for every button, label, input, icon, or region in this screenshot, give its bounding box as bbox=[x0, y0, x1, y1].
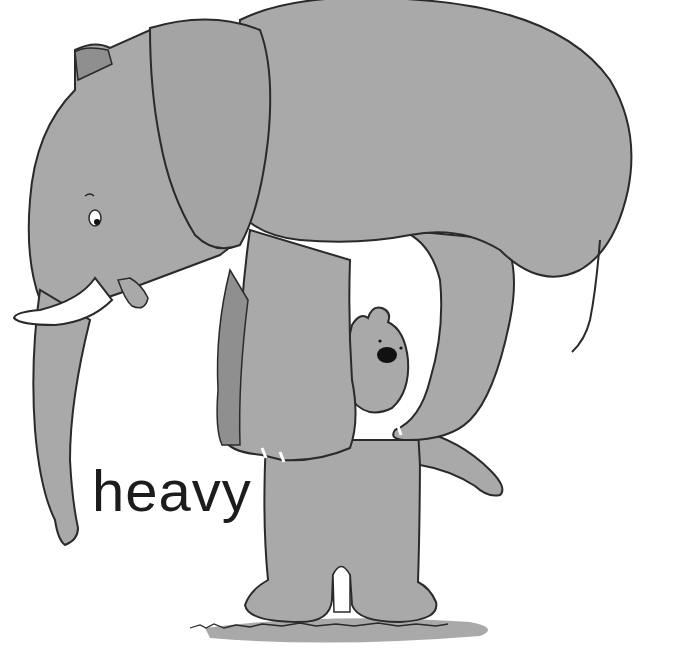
bear-eye-left bbox=[378, 339, 381, 342]
elephant-trunk bbox=[33, 290, 90, 545]
caption-word: heavy bbox=[92, 462, 252, 520]
ground-shadow bbox=[205, 618, 488, 642]
bear-nose bbox=[377, 347, 397, 363]
elephant-and-bear-drawing bbox=[0, 0, 678, 660]
illustration: heavy bbox=[0, 0, 678, 660]
bear-eye-right bbox=[399, 346, 402, 349]
